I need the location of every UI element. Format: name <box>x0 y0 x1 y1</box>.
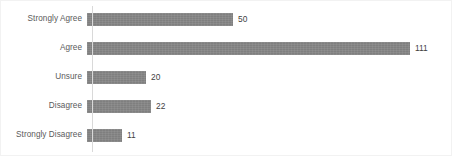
bar <box>87 42 410 55</box>
bar-value-label: 11 <box>127 131 136 139</box>
category-label: Strongly Agree <box>1 15 87 23</box>
chart-row: Strongly Disagree 11 <box>1 121 452 150</box>
bar-track: 20 <box>87 63 452 92</box>
category-label: Disagree <box>1 102 87 110</box>
chart-row: Unsure 20 <box>1 63 452 92</box>
bar <box>87 71 146 84</box>
bar-track: 22 <box>87 92 452 121</box>
chart-row: Agree 111 <box>1 34 452 63</box>
bar-track: 11 <box>87 121 452 150</box>
category-label: Unsure <box>1 73 87 81</box>
bar-value-label: 22 <box>156 102 165 110</box>
bar-track: 50 <box>87 5 452 34</box>
bar-value-label: 50 <box>238 15 247 23</box>
bar-value-label: 20 <box>151 73 160 81</box>
chart-row: Disagree 22 <box>1 92 452 121</box>
chart-row: Strongly Agree 50 <box>1 5 452 34</box>
bar-value-label: 111 <box>415 44 428 52</box>
category-axis-line <box>92 6 93 152</box>
bar <box>87 100 151 113</box>
bar-track: 111 <box>87 34 452 63</box>
category-label: Agree <box>1 44 87 52</box>
category-label: Strongly Disagree <box>1 131 87 139</box>
plot-area: Strongly Agree 50 Agree 111 Unsure 20 Di… <box>1 1 452 156</box>
bar <box>87 13 233 26</box>
bar-chart: Strongly Agree 50 Agree 111 Unsure 20 Di… <box>0 0 452 156</box>
